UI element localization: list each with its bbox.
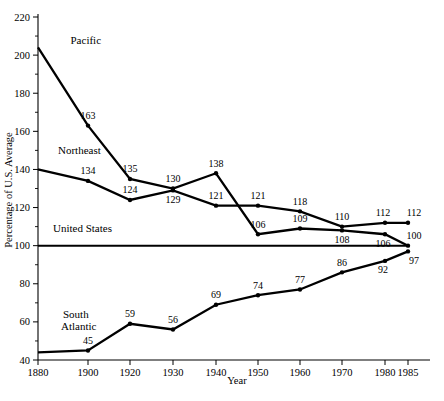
data-point [383,221,387,225]
y-axis-title: Percentage of U.S. Average [3,132,14,248]
data-point-label: 56 [168,314,178,325]
data-point [86,179,90,183]
data-point-label: 135 [123,163,138,174]
data-point [214,171,218,175]
value-labels-layer: 1631351301381061091081061001341241291211… [81,110,422,346]
data-point-label: 106 [376,238,391,249]
series-name-label: Pacific [71,34,102,46]
data-point-label: 109 [293,213,308,224]
data-point-label: 45 [83,335,93,346]
line-chart-canvas: 406080100120140160180200220 188019001920… [0,0,444,401]
series-name-label: Northeast [58,144,101,156]
x-tick-label: 1880 [28,367,49,378]
series-layer [38,47,410,352]
x-tick-label: 1940 [206,367,227,378]
data-point-label: 121 [251,190,266,201]
x-tick-label: 1950 [248,367,269,378]
x-tick-label: 1930 [163,367,184,378]
data-point [214,203,218,207]
y-tick-label: 100 [14,240,30,251]
data-point [128,198,132,202]
data-point [86,348,90,352]
data-point-label: 121 [209,190,224,201]
data-point [340,270,344,274]
data-point [128,177,132,181]
y-tick-label: 160 [14,126,30,137]
data-point-label: 86 [337,257,347,268]
chart-figure: 406080100120140160180200220 188019001920… [0,0,444,401]
data-point-label: 112 [407,207,422,218]
data-point-label: 77 [295,274,305,285]
series-name-labels: PacificNortheastUnited StatesSouthAtlant… [53,34,112,332]
data-point-label: 59 [125,308,135,319]
y-tick-label: 60 [20,316,31,327]
data-point-label: 130 [166,173,181,184]
x-tick-label: 1980 [375,367,396,378]
x-axis-ticks [38,360,408,365]
data-point-label: 74 [253,280,263,291]
data-point-label: 92 [378,264,388,275]
y-tick-label: 180 [14,88,30,99]
data-point [214,303,218,307]
data-point [340,224,344,228]
y-tick-label: 120 [14,202,30,213]
y-axis-group: 406080100120140160180200220 [14,12,38,366]
y-tick-label: 80 [20,278,31,289]
data-point-label: 110 [335,211,350,222]
data-point-label: 118 [293,196,308,207]
series-line-south-atlantic [38,251,408,352]
x-tick-label: 1985 [398,367,419,378]
data-point-label: 124 [123,184,138,195]
y-tick-label: 220 [14,12,30,23]
data-point-label: 100 [407,230,422,241]
data-point [298,226,302,230]
x-tick-label: 1960 [290,367,311,378]
data-point [171,188,175,192]
data-point [340,228,344,232]
x-axis-title: Year [227,375,247,386]
data-point-label: 108 [335,234,350,245]
data-point-label: 69 [211,289,221,300]
data-point-label: 97 [409,255,419,266]
data-point [256,293,260,297]
data-point-label: 163 [81,110,96,121]
data-point-label: 134 [81,165,96,176]
data-point [298,287,302,291]
data-point-label: 129 [166,194,181,205]
data-point [406,249,410,253]
x-tick-label: 1900 [78,367,99,378]
data-point [256,232,260,236]
data-point [128,322,132,326]
data-point [86,123,90,127]
y-tick-label: 200 [14,50,30,61]
x-axis-tick-labels: 1880190019201930194019501960197019801985 [28,367,419,378]
data-point [256,203,260,207]
data-point-label: 138 [209,158,224,169]
series-name-label: United States [53,222,112,234]
series-name-label: SouthAtlantic [61,308,97,332]
y-tick-label: 140 [14,164,30,175]
data-point-label: 106 [251,219,266,230]
data-point [383,232,387,236]
x-tick-label: 1920 [120,367,141,378]
data-point [406,221,410,225]
y-axis-tick-labels: 406080100120140160180200220 [14,12,30,366]
y-tick-label: 40 [20,355,31,366]
data-point [383,259,387,263]
x-tick-label: 1970 [332,367,353,378]
data-point [171,327,175,331]
data-point-label: 112 [376,207,391,218]
